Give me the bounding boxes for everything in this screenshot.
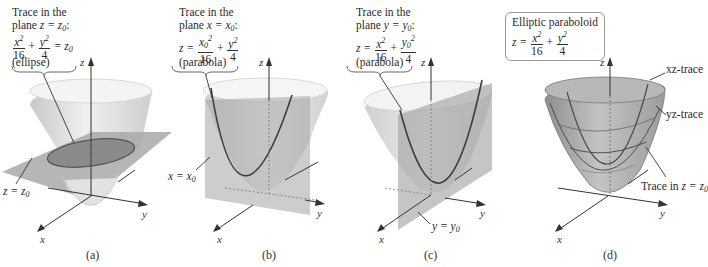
panel-c-z-axis-label: z [421,56,425,68]
panel-c-title-line1: Trace in the [356,6,411,19]
panel-a-title-line1: Trace in the [12,6,67,19]
panel-a-z-axis-label: z [80,56,84,68]
panel-d-yz-trace-label: yz-trace [666,108,703,121]
panel-b-caption: (b) [262,248,276,263]
panel-d-xz-trace-label: xz-trace [666,63,703,76]
panel-d-equation: z = x216 + y24 [512,29,598,57]
panel-d-y-axis-label: y [660,207,665,219]
panel-d-equation-box: Elliptic paraboloid z = x216 + y24 [505,12,605,61]
panel-a-caption: (a) [86,248,99,263]
panel-c: Trace in the plane y = y0: z = x216 + y0… [320,0,500,267]
panel-c-curve-type: (parabola) [356,56,403,69]
panel-a-curve-type: (ellipse) [12,56,50,69]
panel-b-z-axis-label: z [259,56,263,68]
panel-a: Trace in the plane z = z0: x216 + y24 = … [0,0,175,267]
panel-c-y-axis-label: y [480,207,485,219]
panel-a-x-axis-label: x [40,233,45,245]
panel-c-x-axis-label: x [379,233,384,245]
panel-b-graphic [150,0,330,267]
panel-d: Elliptic paraboloid z = x216 + y24 xz-tr… [500,0,706,267]
panel-b-plane-label: x = x0 [168,170,196,186]
panel-b-curve-type: (parabola) [179,56,226,69]
panel-d-caption: (d) [603,248,617,263]
panel-b: Trace in the plane x = x0: z = x0216 + y… [150,0,330,267]
panel-a-y-axis-label: y [142,208,147,220]
panel-d-box-title: Elliptic paraboloid [512,16,598,29]
panel-c-caption: (c) [424,248,437,263]
panel-d-z-axis-label: z [600,56,604,68]
panel-b-title-line1: Trace in the [179,6,234,19]
panel-d-trace-z-label: Trace in z = z0 [641,180,708,196]
panel-d-x-axis-label: x [557,233,562,245]
panel-c-plane-label: y = y0 [432,220,460,236]
panel-a-plane-label: z = z0 [3,185,29,201]
panel-b-x-axis-label: x [217,233,222,245]
